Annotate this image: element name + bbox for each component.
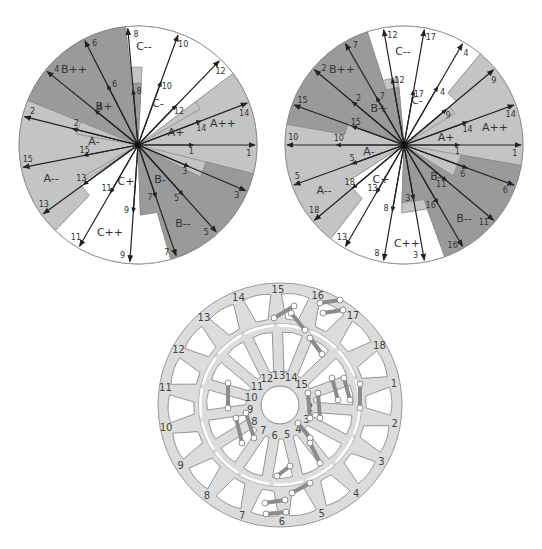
vector-label-outer: 11 [479, 218, 489, 227]
vector-label-inner: 13 [76, 174, 86, 183]
sector-label: B-- [456, 212, 472, 225]
outer-slot-label: 11 [159, 382, 172, 393]
sector-label: C-- [136, 40, 152, 53]
sector-label: A- [363, 145, 374, 158]
coil-terminal [329, 375, 335, 381]
vector-label-outer: 12 [387, 31, 397, 40]
sector-label: A++ [210, 117, 236, 130]
outer-slot-label: 15 [272, 284, 285, 295]
vector-label-outer: 18 [309, 206, 319, 215]
vector-label-outer: 14 [239, 109, 249, 118]
coil [308, 393, 310, 418]
outer-slot-label: 4 [353, 488, 359, 499]
coil-terminal [340, 307, 346, 313]
coil-terminal [283, 509, 289, 515]
coil-terminal [307, 440, 313, 446]
coil-terminal [262, 500, 268, 506]
sector-label: C- [411, 94, 423, 107]
coil-terminal [289, 490, 295, 496]
coil-terminal [357, 405, 363, 411]
vector-label-outer: 2 [322, 64, 327, 73]
coil-terminal [305, 390, 311, 396]
sector-label: A-- [43, 172, 58, 185]
stator-winding-diagram: 1234567891011121314151617181234567891011… [150, 278, 412, 540]
coil-terminal [307, 415, 313, 421]
outer-slot-label: 7 [239, 510, 245, 521]
coil-terminal [357, 381, 363, 387]
vector-label-inner: 3 [405, 194, 410, 203]
vector-label-outer: 7 [353, 41, 358, 50]
vector-label-outer: 14 [506, 110, 516, 119]
outer-slot-label: 6 [279, 516, 285, 527]
inner-slot-label: 6 [272, 430, 278, 441]
phasor-origin [401, 142, 407, 148]
vector-label-outer: 15 [23, 155, 33, 164]
outer-slot-label: 3 [378, 456, 384, 467]
sector-label: B++ [61, 63, 87, 76]
coil-terminal [251, 435, 257, 441]
sector-label: B- [430, 170, 442, 183]
vector-label-inner: 8 [136, 87, 141, 96]
sector-label: A- [88, 135, 99, 148]
vector-label-outer: 17 [426, 33, 436, 42]
vector-label-outer: 5 [295, 172, 300, 181]
outer-slot-label: 13 [198, 312, 211, 323]
coil-terminal [225, 405, 231, 411]
coil-terminal [307, 335, 313, 341]
vector-label-inner: 2 [356, 94, 361, 103]
vector-label-outer: 3 [234, 191, 239, 200]
vector-label-inner: 7 [380, 92, 385, 101]
vector-label-outer: 4 [464, 49, 469, 58]
outer-slot-label: 14 [232, 292, 245, 303]
vector-label-inner: 6 [460, 170, 465, 179]
phasor-diagram-18-slot: 1114149944171712127722151510105518181313… [271, 0, 542, 270]
vector-label-outer: 12 [215, 67, 225, 76]
vector-label-outer: 8 [134, 30, 139, 39]
outer-slot-label: 17 [347, 310, 360, 321]
inner-slot-label: 7 [260, 425, 266, 436]
coil-terminal [287, 463, 293, 469]
vector-label-outer: 1 [246, 149, 251, 158]
vector-label-outer: 13 [39, 200, 49, 209]
vector-label-inner: 5 [174, 194, 179, 203]
coil-terminal [271, 315, 277, 321]
sector-label: B++ [329, 63, 355, 76]
sector-label: B- [154, 173, 166, 186]
inner-slot-label: 13 [273, 370, 286, 381]
coil-terminal [341, 375, 347, 381]
coil-terminal [288, 310, 294, 316]
coil-terminal [307, 480, 313, 486]
coil-terminal [337, 297, 343, 303]
outer-slot-label: 9 [177, 460, 183, 471]
coil-terminal [320, 310, 326, 316]
vector-label-inner: 1 [189, 147, 194, 156]
inner-slot-label: 10 [245, 392, 258, 403]
coil-terminal [317, 300, 323, 306]
vector-label-outer: 11 [71, 233, 81, 242]
sector-label: C++ [394, 237, 420, 250]
sector-label: A+ [168, 126, 185, 139]
coil-terminal [319, 351, 325, 357]
coil-terminal [233, 415, 239, 421]
coil-terminal [263, 511, 269, 517]
outer-slot-label: 1 [391, 378, 397, 389]
outer-slot-label: 8 [204, 490, 210, 501]
vector-label-outer: 7 [164, 248, 169, 257]
outer-slot-label: 2 [391, 418, 397, 429]
outer-slot-label: 12 [172, 344, 185, 355]
vector-label-inner: 18 [345, 178, 355, 187]
coil [318, 393, 320, 418]
inner-slot-label: 15 [295, 379, 308, 390]
sector-label: B+ [96, 100, 113, 113]
outer-slot-label: 16 [311, 290, 324, 301]
sector-label: A+ [438, 131, 455, 144]
vector-label-outer: 10 [178, 40, 188, 49]
vector-label-inner: 9 [446, 111, 451, 120]
coil-terminal [315, 390, 321, 396]
vector-label-inner: 5 [349, 154, 354, 163]
coil-terminal [282, 497, 288, 503]
vector-label-outer: 13 [337, 233, 347, 242]
vector-label-inner: 10 [334, 134, 344, 143]
sector-label: A++ [482, 121, 508, 134]
vector-label-inner: 15 [351, 118, 361, 127]
